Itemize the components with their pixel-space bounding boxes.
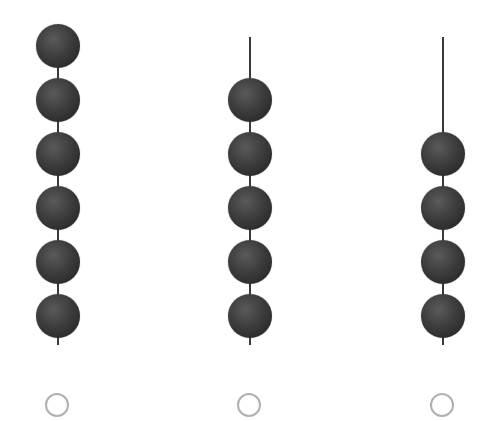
bead (36, 186, 80, 230)
bead-string-option-b (220, 0, 280, 421)
bead (36, 294, 80, 338)
bead (36, 78, 80, 122)
radio-option-b[interactable] (237, 393, 261, 417)
bead (421, 240, 465, 284)
bead (228, 240, 272, 284)
bead (228, 186, 272, 230)
bead-string-option-c (413, 0, 473, 421)
bead (36, 24, 80, 68)
bead (228, 294, 272, 338)
bead (36, 240, 80, 284)
bead-string-option-a (28, 0, 88, 421)
radio-option-c[interactable] (430, 393, 454, 417)
bead (228, 132, 272, 176)
bead (421, 186, 465, 230)
bead (421, 294, 465, 338)
bead (228, 78, 272, 122)
bead (421, 132, 465, 176)
radio-option-a[interactable] (45, 393, 69, 417)
bead (36, 132, 80, 176)
